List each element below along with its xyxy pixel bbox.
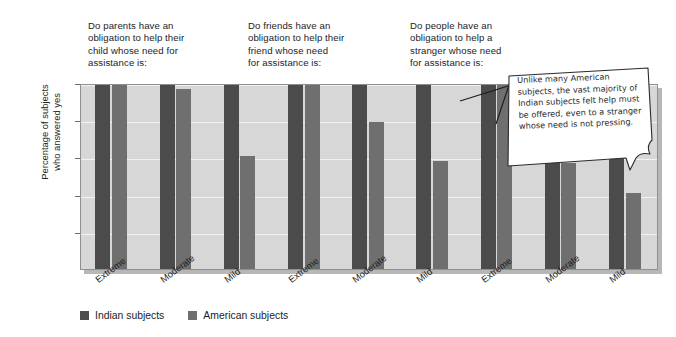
bar-american xyxy=(626,193,641,269)
legend-label: American subjects xyxy=(203,310,288,321)
legend: Indian subjectsAmerican subjects xyxy=(80,310,288,321)
callout-annotation: Unlike many American subjects, the vast … xyxy=(506,66,654,172)
legend-swatch xyxy=(80,311,89,320)
legend-label: Indian subjects xyxy=(95,310,164,321)
group-heading-strangers: Do people have an obligation to help a s… xyxy=(410,20,540,69)
bar-american xyxy=(176,89,191,269)
legend-entry-indian: Indian subjects xyxy=(80,310,164,321)
bar-indian xyxy=(288,85,303,269)
bar-indian xyxy=(481,85,496,269)
group-heading-parents: Do parents have an obligation to help th… xyxy=(88,20,223,69)
bar-american xyxy=(369,122,384,269)
bar-american xyxy=(305,85,320,269)
bar-american xyxy=(112,85,127,269)
group-heading-friends: Do friends have an obligation to help th… xyxy=(248,20,388,69)
y-axis-title: Percentage of subjects who answered yes xyxy=(39,37,63,227)
callout-text: Unlike many American subjects, the vast … xyxy=(517,70,645,133)
legend-swatch xyxy=(188,311,197,320)
bar-indian xyxy=(224,85,239,269)
bar-indian xyxy=(416,85,431,269)
bar-indian xyxy=(95,85,110,269)
legend-entry-american: American subjects xyxy=(188,310,288,321)
bar-american xyxy=(433,161,448,269)
bar-american xyxy=(240,156,255,269)
figure: Do parents have an obligation to help th… xyxy=(0,0,676,337)
bar-indian xyxy=(352,85,367,269)
bar-indian xyxy=(160,85,175,269)
